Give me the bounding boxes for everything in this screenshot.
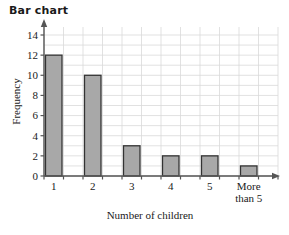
bar xyxy=(202,156,219,176)
y-axis-tick-label: 10 xyxy=(27,69,39,81)
y-axis-tick-label: 2 xyxy=(33,150,39,162)
x-axis-tick-label: 2 xyxy=(90,180,96,192)
y-axis-tick-label: 12 xyxy=(27,49,38,61)
chart-plot-area: 02468101214 12345Morethan 5 Frequency Nu… xyxy=(0,0,289,235)
axes-group xyxy=(41,19,280,179)
x-axis-tick-label: More xyxy=(237,180,261,192)
y-axis-arrowhead xyxy=(41,19,47,27)
x-axis-arrowhead xyxy=(272,173,280,179)
x-axis-tick-labels: 12345Morethan 5 xyxy=(51,180,263,204)
bar xyxy=(46,55,63,176)
x-axis-tick-label: 3 xyxy=(129,180,135,192)
bar xyxy=(163,156,180,176)
bar xyxy=(124,146,141,176)
y-axis-tick-label: 8 xyxy=(33,89,39,101)
y-axis-title: Frequency xyxy=(10,78,22,125)
x-axis-tick-label: 4 xyxy=(168,180,174,192)
x-axis-tick-label: than 5 xyxy=(235,192,263,204)
x-axis-title: Number of children xyxy=(107,209,194,221)
x-axis-tick-label: 5 xyxy=(207,180,213,192)
bar xyxy=(241,166,258,176)
y-axis-tick-labels: 02468101214 xyxy=(27,29,39,182)
gridlines xyxy=(44,27,278,176)
x-axis-tick-label: 1 xyxy=(51,180,57,192)
y-axis-tick-label: 14 xyxy=(27,29,39,41)
bar-chart-figure: Bar chart 02468101214 12345Morethan 5 Fr… xyxy=(0,0,289,235)
y-axis-tick-label: 0 xyxy=(33,170,39,182)
bar xyxy=(85,75,102,176)
y-axis-tick-label: 6 xyxy=(33,109,39,121)
y-axis-tick-label: 4 xyxy=(33,130,39,142)
